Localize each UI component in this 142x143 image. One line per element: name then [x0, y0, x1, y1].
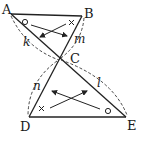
angle-mark-circle-A [22, 19, 27, 24]
arc-k [11, 16, 59, 60]
angle-mark-circle-E [105, 108, 110, 113]
label-D: D [20, 119, 30, 134]
label-n: n [33, 79, 41, 93]
angle-mark-cross-B [69, 20, 74, 25]
arrow-bottom-1 [52, 91, 100, 109]
label-l: l [97, 76, 101, 90]
arrow-top-2 [40, 24, 66, 37]
label-B: B [84, 6, 94, 21]
label-m: m [74, 32, 85, 46]
triangles [11, 14, 126, 117]
arrow-bottom-2 [50, 91, 87, 108]
angle-mark-cross-D [39, 106, 44, 111]
correspondence-arrows [31, 24, 100, 109]
segment-AB [11, 14, 82, 16]
label-A: A [1, 2, 12, 17]
label-C: C [70, 51, 80, 66]
label-k: k [23, 35, 30, 49]
label-E: E [127, 118, 137, 133]
segment-AE [11, 14, 126, 117]
geometry-diagram: A B C D E k m n l [0, 0, 142, 143]
